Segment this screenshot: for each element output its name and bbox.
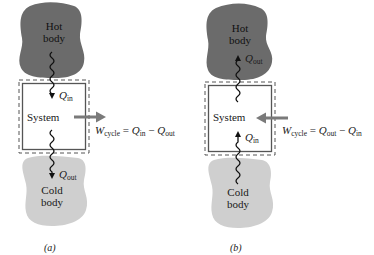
- eq-equals: =: [120, 124, 132, 136]
- heat-subscript: in: [253, 136, 259, 145]
- heat-subscript: out: [67, 173, 77, 182]
- eq-lhs: W: [95, 124, 104, 136]
- heat-symbol: Q: [245, 52, 253, 64]
- eq-lhs-sub: cycle: [104, 129, 120, 138]
- heat-in-label: Qin: [59, 89, 73, 105]
- hot-body-label: Hot body: [34, 20, 74, 44]
- cold-body-label: Cold body: [218, 186, 258, 210]
- hot-body-label-line2: body: [34, 32, 74, 44]
- eq-lhs: W: [282, 124, 291, 136]
- eq-lhs-sub: cycle: [291, 129, 307, 138]
- work-equation: Wcycle = Qout − Qin: [282, 124, 362, 140]
- eq-term1: Q: [132, 124, 140, 136]
- eq-equals: =: [307, 124, 319, 136]
- heat-out-label: Qout: [245, 52, 263, 68]
- heat-in-label: Qin: [245, 131, 259, 147]
- cold-body-label-line2: body: [32, 196, 72, 208]
- eq-term2-sub: in: [356, 129, 362, 138]
- cold-body-label: Cold body: [32, 184, 72, 208]
- heat-symbol: Q: [59, 89, 67, 101]
- eq-minus: −: [146, 124, 158, 136]
- system-label: System: [27, 111, 59, 123]
- cold-body-label-line2: body: [218, 198, 258, 210]
- hot-body-label-line2: body: [220, 34, 260, 46]
- panel-label-a: (a): [44, 242, 56, 253]
- cold-body-label-line1: Cold: [32, 184, 72, 196]
- hot-body-label-line1: Hot: [220, 22, 260, 34]
- eq-term1-sub: out: [327, 129, 337, 138]
- eq-term2: Q: [157, 124, 165, 136]
- eq-minus: −: [336, 124, 348, 136]
- heat-symbol: Q: [245, 131, 253, 143]
- heat-out-label: Qout: [59, 168, 77, 184]
- eq-term2: Q: [348, 124, 356, 136]
- hot-body-label-line1: Hot: [34, 20, 74, 32]
- heat-subscript: out: [253, 57, 263, 66]
- system-label: System: [213, 111, 245, 123]
- panel-label-b: (b): [230, 242, 242, 253]
- eq-term1: Q: [319, 124, 327, 136]
- heat-subscript: in: [67, 94, 73, 103]
- heat-symbol: Q: [59, 168, 67, 180]
- work-equation: Wcycle = Qin − Qout: [95, 124, 175, 140]
- cold-body-label-line1: Cold: [218, 186, 258, 198]
- hot-body-label: Hot body: [220, 22, 260, 46]
- eq-term2-sub: out: [165, 129, 175, 138]
